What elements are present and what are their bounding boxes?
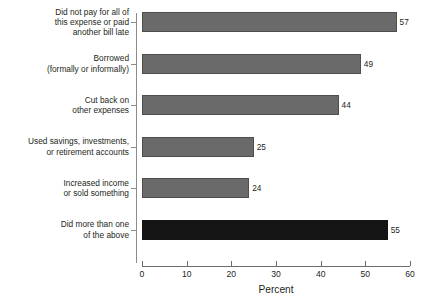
bar-row: Increased income or sold something24 xyxy=(0,178,423,218)
bar-rows: Did not pay for all of this expense or p… xyxy=(0,0,423,266)
x-axis-tick xyxy=(321,261,322,266)
category-tick xyxy=(131,105,136,106)
x-axis-tick-label: 60 xyxy=(390,269,423,280)
category-label: Used savings, investments, or retirement… xyxy=(0,136,129,156)
bar xyxy=(142,178,249,198)
x-axis-tick xyxy=(142,261,143,266)
x-axis-tick xyxy=(187,261,188,266)
bar-value-label: 44 xyxy=(342,100,351,110)
category-tick xyxy=(131,147,136,148)
bar-row: Cut back on other expenses44 xyxy=(0,95,423,135)
x-axis-tick-label: 30 xyxy=(256,269,296,280)
bar xyxy=(142,220,388,240)
x-axis-tick xyxy=(365,261,366,266)
bar-chart: Did not pay for all of this expense or p… xyxy=(0,0,423,307)
category-tick xyxy=(131,230,136,231)
x-axis-tick xyxy=(276,261,277,266)
bar xyxy=(142,137,254,157)
bar-row: Did not pay for all of this expense or p… xyxy=(0,12,423,52)
x-axis-tick-label: 0 xyxy=(122,269,162,280)
category-label: Did not pay for all of this expense or p… xyxy=(0,7,129,38)
x-axis-tick xyxy=(410,261,411,266)
category-tick xyxy=(131,188,136,189)
category-label: Cut back on other expenses xyxy=(0,95,129,115)
bar-value-label: 24 xyxy=(252,183,261,193)
bar-value-label: 49 xyxy=(364,59,373,69)
bar xyxy=(142,12,397,32)
value-axis-line xyxy=(142,266,410,267)
category-label: Borrowed (formally or informally) xyxy=(0,53,129,73)
x-axis-tick xyxy=(231,261,232,266)
x-axis-tick-label: 50 xyxy=(345,269,385,280)
x-axis-title: Percent xyxy=(142,283,410,296)
x-axis-tick-label: 20 xyxy=(211,269,251,280)
bar-value-label: 25 xyxy=(257,142,266,152)
bar-row: Used savings, investments, or retirement… xyxy=(0,137,423,177)
bar-value-label: 57 xyxy=(400,17,409,27)
bar-row: Borrowed (formally or informally)49 xyxy=(0,54,423,94)
bar xyxy=(142,54,361,74)
category-tick xyxy=(131,64,136,65)
category-label: Did more than one of the above xyxy=(0,219,129,239)
bar-value-label: 55 xyxy=(391,225,400,235)
bar xyxy=(142,95,339,115)
x-axis-tick-label: 10 xyxy=(167,269,207,280)
category-tick xyxy=(131,22,136,23)
x-axis-tick-label: 40 xyxy=(301,269,341,280)
category-label: Increased income or sold something xyxy=(0,178,129,198)
bar-row: Did more than one of the above55 xyxy=(0,220,423,260)
